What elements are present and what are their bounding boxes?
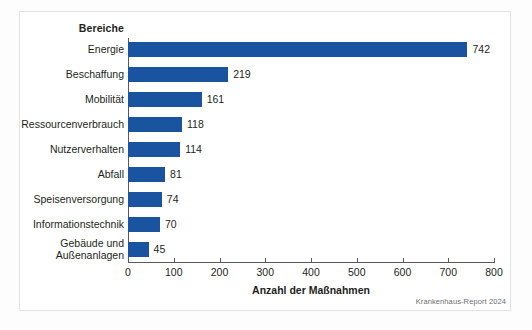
bar-row: 219 [128,63,494,88]
x-tick-mark [174,258,175,262]
category-label: Mobilität [0,94,124,106]
bar [128,92,202,107]
bar-value-label: 219 [228,67,251,82]
category-label: Ressourcenverbrauch [0,119,124,131]
x-tick-label: 300 [245,266,285,278]
bar [128,42,467,57]
bar-row: 118 [128,113,494,138]
x-tick-mark [494,258,495,262]
bar-value-label: 118 [182,117,204,132]
bar-value-label: 81 [165,167,182,182]
x-tick-label: 200 [200,266,240,278]
bar-row: 114 [128,138,494,163]
bar-row: 81 [128,163,494,188]
category-label: Energie [0,44,124,56]
x-tick-mark [403,258,404,262]
chart-figure: Bereiche 74221916111811481747045 Energie… [0,0,532,330]
x-tick-label: 400 [291,266,331,278]
x-tick-label: 100 [154,266,194,278]
x-tick-label: 600 [383,266,423,278]
x-tick-label: 700 [428,266,468,278]
x-tick-mark [357,258,358,262]
bar [128,117,182,132]
x-tick-mark [448,258,449,262]
x-tick-label: 500 [337,266,377,278]
category-label: Informationstechnik [0,219,124,231]
bar-row: 161 [128,88,494,113]
bar-row: 70 [128,213,494,238]
category-label: Beschaffung [0,69,124,81]
bar [128,142,180,157]
x-tick-mark [265,258,266,262]
category-label: Abfall [0,169,124,181]
x-tick-mark [220,258,221,262]
bar [128,217,160,232]
bar [128,192,162,207]
bar [128,67,228,82]
x-axis-title: Anzahl der Maßnahmen [128,284,494,296]
bar-value-label: 742 [467,42,490,57]
bar [128,242,149,257]
bar-value-label: 70 [160,217,177,232]
bar-value-label: 74 [162,192,179,207]
source-note: Krankenhaus-Report 2024 [416,297,506,306]
bar-row: 742 [128,38,494,63]
x-tick-label: 800 [474,266,514,278]
x-tick-label: 0 [108,266,148,278]
bar-row: 74 [128,188,494,213]
bar-value-label: 45 [149,242,166,257]
x-tick-mark [128,258,129,262]
bar [128,167,165,182]
category-label: Nutzerverhalten [0,144,124,156]
bar-value-label: 114 [180,142,202,157]
category-label: Speisenversorgung [0,194,124,206]
y-axis-title: Bereiche [0,22,124,34]
category-label: Gebäude und Außenanlagen [0,238,124,261]
x-tick-mark [311,258,312,262]
bar-value-label: 161 [202,92,225,107]
